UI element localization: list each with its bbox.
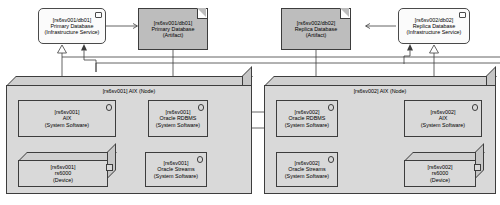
component-oracle-streams-rs6sv002[interactable]: [rs6sv002] Oracle Streams (System Softwa…: [276, 152, 338, 187]
service-corner-icon-2: [459, 12, 466, 18]
component-aix-1-label: [rs6sv001] AIX (System Software): [45, 109, 89, 127]
primary-db-svc-line3: (Infrastructure Service): [45, 29, 100, 35]
aix2-line3: (System Software): [421, 122, 465, 128]
primary-database-service[interactable]: [rs6sv001/db01] Primary Database (Infras…: [38, 8, 106, 44]
device-square-icon-1: [106, 164, 113, 171]
primary-database-service-label: [rs6sv001/db01] Primary Database (Infras…: [45, 17, 100, 35]
component-circle-icon-3: [197, 156, 204, 163]
node-container-title-1: [rs6sv001] AIX (Node): [6, 88, 252, 94]
str1-line3: (System Software): [154, 173, 198, 179]
component-rdbms-2-label: [rs6sv002] Oracle RDBMS (System Software…: [285, 109, 329, 127]
device-rs6000-rs6sv001[interactable]: [rs6sv001] rs6000 (Device): [18, 152, 116, 187]
generalization-triangle-left: [58, 45, 67, 53]
component-streams-2-label: [rs6sv002] Oracle Streams (System Softwa…: [285, 160, 329, 178]
dev2-line3: (Device): [428, 177, 453, 183]
component-aix-2-label: [rs6sv002] AIX (System Software): [421, 109, 465, 127]
wire-rail-a: [96, 63, 108, 72]
aix1-line3: (System Software): [45, 122, 89, 128]
str2-line3: (System Software): [285, 173, 329, 179]
device-front-face-2: [rs6sv002] rs6000 (Device): [404, 160, 476, 187]
replica-database-service[interactable]: [rs6sv002/db02] Replica Database (Infras…: [398, 8, 470, 44]
component-aix-rs6sv001[interactable]: [rs6sv001] AIX (System Software): [18, 100, 116, 137]
dev1-line3: (Device): [51, 177, 76, 183]
node-container-title-2: [rs6sv002] AIX (Node): [264, 88, 496, 94]
replica-database-artifact[interactable]: [rs6sv002/db02] Replica Database (Artifa…: [281, 8, 351, 50]
primary-db-art-line3: (Artifact): [151, 32, 194, 38]
component-streams-1-label: [rs6sv001] Oracle Streams (System Softwa…: [154, 160, 198, 178]
primary-database-artifact-label: [rs6sv001/db01] Primary Database (Artifa…: [151, 20, 194, 38]
generalization-triangle-right: [430, 45, 439, 53]
rdbms2-line2: Oracle RDBMS: [285, 115, 329, 121]
replica-db-art-line3: (Artifact): [295, 32, 338, 38]
service-corner-icon: [95, 12, 102, 18]
arrowhead-filled-right: [407, 44, 413, 51]
device-rs6000-2-label: [rs6sv002] rs6000 (Device): [428, 164, 453, 182]
component-oracle-rdbms-rs6sv002[interactable]: [rs6sv002] Oracle RDBMS (System Software…: [276, 100, 338, 137]
component-circle-icon-4: [328, 104, 335, 111]
device-square-icon-2: [474, 164, 481, 171]
rdbms1-line2: Oracle RDBMS: [156, 115, 200, 121]
component-circle-icon-6: [328, 156, 335, 163]
component-circle-icon-5: [472, 104, 479, 111]
deployment-diagram-canvas: [rs6sv001/db01] Primary Database (Infras…: [0, 0, 500, 205]
replica-db-svc-line3: (Infrastructure Service): [407, 29, 462, 35]
primary-database-artifact[interactable]: [rs6sv001/db01] Primary Database (Artifa…: [138, 8, 208, 50]
replica-database-service-label: [rs6sv002/db02] Replica Database (Infras…: [407, 17, 462, 35]
device-front-face-1: [rs6sv001] rs6000 (Device): [18, 160, 108, 187]
component-rdbms-1-label: [rs6sv001] Oracle RDBMS (System Software…: [156, 109, 200, 127]
arrowhead-filled-left: [81, 44, 87, 51]
device-rs6000-rs6sv002[interactable]: [rs6sv002] rs6000 (Device): [404, 152, 484, 187]
artifact-dogear-icon-2: [340, 9, 350, 19]
str1-line2: Oracle Streams: [154, 166, 198, 172]
str2-line2: Oracle Streams: [285, 166, 329, 172]
component-oracle-streams-rs6sv001[interactable]: [rs6sv001] Oracle Streams (System Softwa…: [145, 152, 207, 187]
device-rs6000-1-label: [rs6sv001] rs6000 (Device): [51, 164, 76, 182]
rdbms1-line3: (System Software): [156, 122, 200, 128]
component-aix-rs6sv002[interactable]: [rs6sv002] AIX (System Software): [404, 100, 482, 137]
component-circle-icon: [106, 104, 113, 111]
artifact-dogear-icon: [197, 9, 207, 19]
wire-rdbms-to-service-left-elbow: [84, 60, 96, 72]
component-circle-icon-2: [198, 104, 205, 111]
rdbms2-line3: (System Software): [285, 122, 329, 128]
replica-database-artifact-label: [rs6sv002/db02] Replica Database (Artifa…: [295, 20, 338, 38]
component-oracle-rdbms-rs6sv001[interactable]: [rs6sv001] Oracle RDBMS (System Software…: [148, 100, 208, 137]
